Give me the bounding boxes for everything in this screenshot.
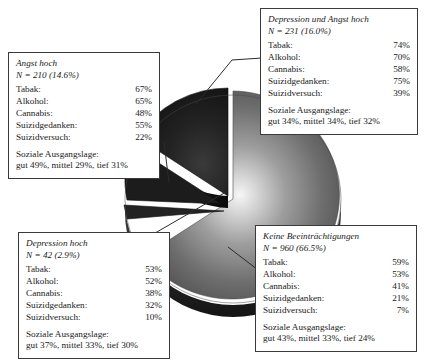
- callout-row: Suizidversuch: 7%: [263, 305, 409, 317]
- row-label: Suizidgedanken:: [16, 120, 77, 132]
- callout-row: Suizidversuch: 22%: [16, 132, 152, 144]
- footer-label: Soziale Ausgangslage:: [26, 329, 162, 341]
- callout-subtitle: N = 42 (2.9%): [26, 250, 162, 262]
- callout-depression-und-angst-hoch[interactable]: Depression und Angst hoch N = 231 (16.0%…: [260, 8, 418, 135]
- callout-row: Alkohol: 70%: [268, 52, 410, 64]
- row-label: Suizidgedanken:: [263, 293, 324, 305]
- row-label: Tabak:: [16, 84, 41, 96]
- row-label: Suizidversuch:: [268, 88, 323, 100]
- row-value: 65%: [116, 96, 152, 108]
- row-value: 53%: [126, 264, 162, 276]
- row-value: 48%: [116, 108, 152, 120]
- callout-row: Cannabis: 58%: [268, 64, 410, 76]
- row-label: Tabak:: [26, 264, 51, 276]
- callout-row: Cannabis: 41%: [263, 281, 409, 293]
- row-value: 32%: [126, 300, 162, 312]
- footer-label: Soziale Ausgangslage:: [268, 105, 410, 117]
- row-label: Alkohol:: [16, 96, 49, 108]
- callout-row: Tabak: 74%: [268, 40, 410, 52]
- row-value: 52%: [126, 276, 162, 288]
- row-value: 41%: [373, 281, 409, 293]
- callout-rows: Tabak: 53% Alkohol: 52% Cannabis: 38% Su…: [26, 264, 162, 324]
- row-label: Suizidgedanken:: [268, 76, 329, 88]
- row-label: Alkohol:: [26, 276, 59, 288]
- row-value: 21%: [373, 293, 409, 305]
- row-value: 59%: [373, 257, 409, 269]
- callout-subtitle: N = 231 (16.0%): [268, 26, 410, 38]
- callout-row: Cannabis: 48%: [16, 108, 152, 120]
- pie-chart-figure: Angst hoch N = 210 (14.6%) Tabak: 67% Al…: [0, 0, 425, 363]
- footer-value: gut 49%, mittel 29%, tief 31%: [16, 160, 152, 172]
- callout-row: Suizidgedanken: 75%: [268, 76, 410, 88]
- row-value: 22%: [116, 132, 152, 144]
- callout-subtitle: N = 960 (66.5%): [263, 243, 409, 255]
- footer-value: gut 37%, mittel 33%, tief 30%: [26, 340, 162, 352]
- row-value: 58%: [374, 64, 410, 76]
- row-label: Alkohol:: [268, 52, 301, 64]
- footer-value: gut 43%, mittel 33%, tief 24%: [263, 333, 409, 345]
- row-label: Cannabis:: [26, 288, 63, 300]
- row-value: 74%: [374, 40, 410, 52]
- row-label: Suizidversuch:: [16, 132, 71, 144]
- callout-row: Suizidversuch: 39%: [268, 88, 410, 100]
- callout-row: Suizidgedanken: 32%: [26, 300, 162, 312]
- row-value: 38%: [126, 288, 162, 300]
- row-label: Suizidversuch:: [26, 312, 81, 324]
- callout-row: Suizidgedanken: 21%: [263, 293, 409, 305]
- callout-title: Keine Beeinträchtigungen: [263, 231, 409, 243]
- row-value: 7%: [373, 305, 409, 317]
- callout-row: Alkohol: 53%: [263, 269, 409, 281]
- row-value: 75%: [374, 76, 410, 88]
- footer-label: Soziale Ausgangslage:: [263, 322, 409, 334]
- row-value: 10%: [126, 312, 162, 324]
- footer-label: Soziale Ausgangslage:: [16, 149, 152, 161]
- row-label: Suizidversuch:: [263, 305, 318, 317]
- callout-row: Suizidgedanken: 55%: [16, 120, 152, 132]
- callout-footer: Soziale Ausgangslage: gut 37%, mittel 33…: [26, 329, 162, 353]
- callout-title: Depression hoch: [26, 238, 162, 250]
- row-label: Cannabis:: [268, 64, 305, 76]
- callout-row: Tabak: 59%: [263, 257, 409, 269]
- row-value: 53%: [373, 269, 409, 281]
- callout-title: Depression und Angst hoch: [268, 14, 410, 26]
- row-value: 70%: [374, 52, 410, 64]
- callout-row: Alkohol: 65%: [16, 96, 152, 108]
- row-value: 67%: [116, 84, 152, 96]
- row-label: Tabak:: [268, 40, 293, 52]
- callout-footer: Soziale Ausgangslage: gut 34%, mittel 34…: [268, 105, 410, 129]
- callout-title: Angst hoch: [16, 58, 152, 70]
- callout-rows: Tabak: 74% Alkohol: 70% Cannabis: 58% Su…: [268, 40, 410, 100]
- row-label: Cannabis:: [16, 108, 53, 120]
- callout-rows: Tabak: 67% Alkohol: 65% Cannabis: 48% Su…: [16, 84, 152, 144]
- callout-footer: Soziale Ausgangslage: gut 43%, mittel 33…: [263, 322, 409, 346]
- row-value: 39%: [374, 88, 410, 100]
- row-label: Cannabis:: [263, 281, 300, 293]
- callout-angst-hoch[interactable]: Angst hoch N = 210 (14.6%) Tabak: 67% Al…: [8, 52, 160, 179]
- callout-row: Tabak: 67%: [16, 84, 152, 96]
- row-value: 55%: [116, 120, 152, 132]
- callout-row: Alkohol: 52%: [26, 276, 162, 288]
- footer-value: gut 34%, mittel 34%, tief 32%: [268, 116, 410, 128]
- callout-row: Suizidversuch: 10%: [26, 312, 162, 324]
- row-label: Suizidgedanken:: [26, 300, 87, 312]
- callout-depression-hoch[interactable]: Depression hoch N = 42 (2.9%) Tabak: 53%…: [18, 232, 170, 359]
- callout-row: Tabak: 53%: [26, 264, 162, 276]
- row-label: Tabak:: [263, 257, 288, 269]
- callout-rows: Tabak: 59% Alkohol: 53% Cannabis: 41% Su…: [263, 257, 409, 317]
- callout-footer: Soziale Ausgangslage: gut 49%, mittel 29…: [16, 149, 152, 173]
- callout-subtitle: N = 210 (14.6%): [16, 70, 152, 82]
- callout-keine-beeintraechtigungen[interactable]: Keine Beeinträchtigungen N = 960 (66.5%)…: [255, 225, 417, 352]
- row-label: Alkohol:: [263, 269, 296, 281]
- callout-row: Cannabis: 38%: [26, 288, 162, 300]
